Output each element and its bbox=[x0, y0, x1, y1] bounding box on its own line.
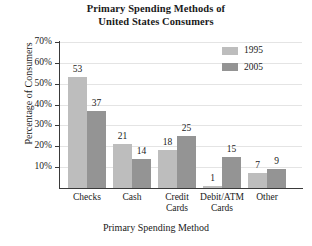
legend-swatch bbox=[222, 47, 238, 55]
legend-item: 1995 bbox=[222, 46, 263, 56]
x-axis-category-label: Other bbox=[237, 192, 297, 203]
gridline bbox=[60, 84, 302, 85]
bar bbox=[68, 77, 87, 188]
y-axis-tick-label: 20% bbox=[6, 141, 52, 151]
gridline bbox=[60, 42, 302, 43]
legend-label: 2005 bbox=[244, 63, 263, 73]
y-axis-tick-label: 60% bbox=[6, 58, 52, 68]
chart-title-line-2: United States Consumers bbox=[0, 16, 312, 29]
bar bbox=[267, 169, 286, 188]
x-axis-title: Primary Spending Method bbox=[0, 222, 312, 233]
chart-title-line-1: Primary Spending Methods of bbox=[0, 3, 312, 16]
bar-value-label: 37 bbox=[83, 99, 110, 109]
bar bbox=[248, 173, 267, 188]
x-axis-line bbox=[59, 188, 303, 189]
legend-swatch bbox=[222, 63, 238, 71]
category-label-line: Other bbox=[237, 192, 297, 203]
bar-value-label: 25 bbox=[173, 124, 200, 134]
y-axis-tick-label: 30% bbox=[6, 120, 52, 130]
bar-value-label: 21 bbox=[109, 132, 136, 142]
y-axis-tick-label: 70% bbox=[6, 37, 52, 47]
legend-item: 2005 bbox=[222, 63, 263, 73]
bar bbox=[177, 136, 196, 188]
plot-area: 53372114182511579 bbox=[60, 42, 302, 188]
legend-label: 1995 bbox=[244, 46, 263, 56]
bar bbox=[87, 111, 106, 188]
bar-value-label: 14 bbox=[128, 147, 155, 157]
bar bbox=[132, 159, 151, 188]
bar-value-label: 9 bbox=[263, 157, 290, 167]
bar bbox=[158, 150, 177, 188]
category-label-line: Cards bbox=[192, 203, 252, 214]
bar bbox=[203, 186, 222, 188]
y-axis-tick-label: 10% bbox=[6, 162, 52, 172]
bar bbox=[222, 157, 241, 188]
y-axis-tick-label: 40% bbox=[6, 100, 52, 110]
gridline bbox=[60, 63, 302, 64]
chart-title: Primary Spending Methods of United State… bbox=[0, 3, 312, 28]
bar-value-label: 53 bbox=[64, 65, 91, 75]
y-axis-tick-label: 50% bbox=[6, 79, 52, 89]
bar-value-label: 15 bbox=[218, 145, 245, 155]
bar-chart: Primary Spending Methods of United State… bbox=[0, 0, 312, 246]
legend: 19952005 bbox=[222, 46, 263, 79]
